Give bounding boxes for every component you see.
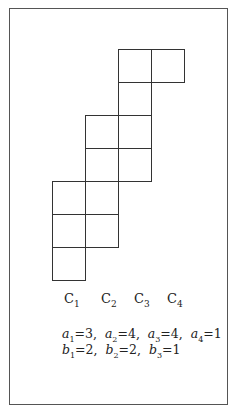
equation-line-b: b1=2, b2=2, b3=1 xyxy=(62,342,180,360)
grid-cell xyxy=(118,115,152,149)
grid-cell xyxy=(85,115,119,149)
column-label-c4: C4 xyxy=(167,291,183,309)
grid-cell xyxy=(52,247,86,281)
column-label-c2: C2 xyxy=(101,291,117,309)
equation-line-a: a1=3, a2=4, a3=4, a4=1 xyxy=(62,326,222,344)
grid-cell xyxy=(85,181,119,215)
grid-cell xyxy=(52,214,86,248)
grid-cell xyxy=(118,82,152,116)
grid-cell xyxy=(85,148,119,182)
column-label-c1: C1 xyxy=(64,291,80,309)
column-label-c3: C3 xyxy=(134,291,150,309)
grid-cell xyxy=(118,148,152,182)
grid-cell xyxy=(85,214,119,248)
grid-cell xyxy=(151,49,185,83)
grid-cell xyxy=(118,49,152,83)
grid-cell xyxy=(52,181,86,215)
